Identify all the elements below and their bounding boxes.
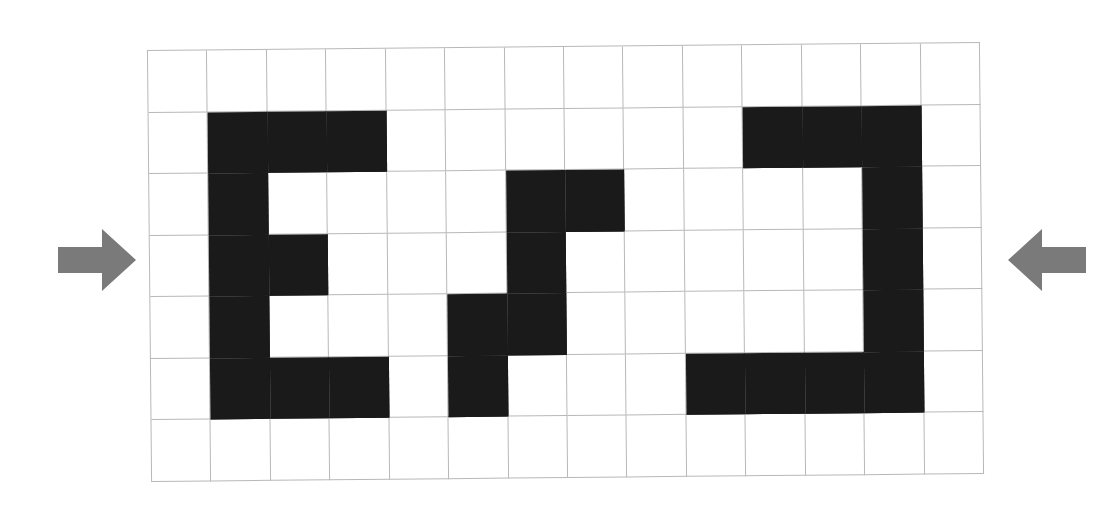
grid-cell-filled-12-2[interactable] [862,167,922,229]
grid-cell-4-5[interactable] [389,356,449,418]
grid-cell-4-4[interactable] [388,294,448,356]
grid-cell-0-5[interactable] [151,358,211,420]
grid-cell-6-5[interactable] [507,355,567,417]
grid-cell-2-0[interactable] [267,49,327,111]
grid-cell-4-2[interactable] [387,171,447,233]
grid-cell-2-2[interactable] [268,172,328,234]
grid-cell-4-3[interactable] [387,233,447,295]
grid-cell-0-4[interactable] [150,297,210,359]
grid-cell-5-6[interactable] [449,417,509,479]
grid-cell-3-6[interactable] [330,418,390,480]
grid-cell-8-3[interactable] [625,231,685,293]
grid-cell-2-4[interactable] [269,296,329,358]
grid-cell-filled-10-5[interactable] [745,353,805,415]
grid-cell-7-3[interactable] [566,231,626,293]
grid-cell-1-0[interactable] [207,50,267,112]
grid-cell-0-2[interactable] [149,174,209,236]
grid-cell-filled-6-2[interactable] [506,170,566,232]
grid-cell-filled-9-5[interactable] [686,353,746,415]
grid-cell-0-3[interactable] [150,235,210,297]
grid-cell-8-4[interactable] [626,292,686,354]
grid-cell-10-6[interactable] [746,414,806,476]
grid-cell-8-2[interactable] [625,169,685,231]
grid-cell-0-6[interactable] [152,420,212,482]
grid-cell-5-3[interactable] [447,232,507,294]
grid-cell-3-3[interactable] [328,233,388,295]
grid-cell-6-6[interactable] [508,416,568,478]
grid-cell-8-5[interactable] [626,354,686,416]
grid-cell-8-0[interactable] [623,46,683,108]
grid-cell-filled-1-1[interactable] [208,111,268,173]
grid-cell-filled-12-3[interactable] [863,228,923,290]
grid-cell-7-6[interactable] [567,416,627,478]
grid-cell-7-0[interactable] [564,46,624,108]
grid-cell-filled-2-3[interactable] [269,234,329,296]
grid-cell-filled-5-5[interactable] [448,355,508,417]
grid-cell-9-2[interactable] [684,168,744,230]
grid-cell-filled-3-5[interactable] [329,357,389,419]
grid-cell-filled-1-3[interactable] [209,235,269,297]
grid-cell-9-0[interactable] [683,45,743,107]
grid-cell-13-1[interactable] [921,105,981,167]
grid-cell-5-0[interactable] [445,48,505,110]
grid-cell-13-0[interactable] [920,43,980,105]
grid-cell-3-4[interactable] [329,295,389,357]
grid-cell-4-6[interactable] [389,418,449,480]
grid-cell-filled-6-4[interactable] [507,293,567,355]
grid-cell-filled-2-5[interactable] [270,357,330,419]
grid-cell-7-4[interactable] [566,293,626,355]
arrow-right-icon [56,225,138,295]
grid-cell-13-5[interactable] [923,351,983,413]
grid-cell-13-3[interactable] [922,228,982,290]
grid-cell-filled-11-5[interactable] [805,352,865,414]
grid-cell-9-3[interactable] [685,230,745,292]
grid-cell-12-6[interactable] [865,413,925,475]
grid-cell-8-1[interactable] [624,107,684,169]
grid-cell-filled-12-4[interactable] [863,290,923,352]
grid-cell-9-6[interactable] [686,415,746,477]
grid-cell-5-2[interactable] [446,171,506,233]
grid-cell-filled-5-4[interactable] [447,294,507,356]
grid-cell-0-0[interactable] [148,50,208,112]
grid-cell-filled-7-2[interactable] [565,170,625,232]
grid-cell-4-0[interactable] [386,48,446,110]
grid-cell-10-0[interactable] [742,45,802,107]
grid-cell-filled-3-1[interactable] [327,110,387,172]
grid-cell-6-0[interactable] [505,47,565,109]
grid-cell-5-1[interactable] [446,109,506,171]
grid-cell-6-1[interactable] [505,109,565,171]
grid-cell-filled-1-4[interactable] [210,296,270,358]
grid-cell-3-0[interactable] [326,49,386,111]
grid-cell-13-4[interactable] [923,289,983,351]
grid-cell-filled-2-1[interactable] [267,111,327,173]
grid-cell-12-0[interactable] [861,44,921,106]
grid-cell-filled-11-1[interactable] [802,106,862,168]
grid-cell-filled-6-3[interactable] [506,232,566,294]
grid-cell-10-4[interactable] [745,291,805,353]
grid-cell-10-3[interactable] [744,229,804,291]
grid-cell-9-1[interactable] [683,107,743,169]
grid-cell-11-0[interactable] [802,44,862,106]
grid-cell-11-2[interactable] [803,167,863,229]
grid-cell-7-5[interactable] [567,354,627,416]
grid-cell-13-6[interactable] [924,412,984,474]
grid-cell-9-4[interactable] [685,292,745,354]
grid-cell-8-6[interactable] [627,415,687,477]
grid-cell-11-3[interactable] [803,229,863,291]
arrow-left-glyph [1006,225,1088,295]
grid-cell-13-2[interactable] [922,166,982,228]
grid-cell-11-4[interactable] [804,290,864,352]
grid-cell-7-1[interactable] [565,108,625,170]
grid-cell-10-2[interactable] [743,168,803,230]
grid-cell-filled-1-2[interactable] [209,173,269,235]
grid-cell-filled-12-5[interactable] [864,351,924,413]
grid-cell-2-6[interactable] [270,419,330,481]
grid-cell-11-6[interactable] [805,414,865,476]
grid-cell-3-2[interactable] [327,172,387,234]
grid-cell-1-6[interactable] [211,419,271,481]
grid-cell-4-1[interactable] [386,110,446,172]
grid-cell-filled-10-1[interactable] [743,106,803,168]
grid-cell-filled-1-5[interactable] [210,358,270,420]
grid-cell-0-1[interactable] [149,112,209,174]
grid-cell-filled-12-1[interactable] [862,105,922,167]
